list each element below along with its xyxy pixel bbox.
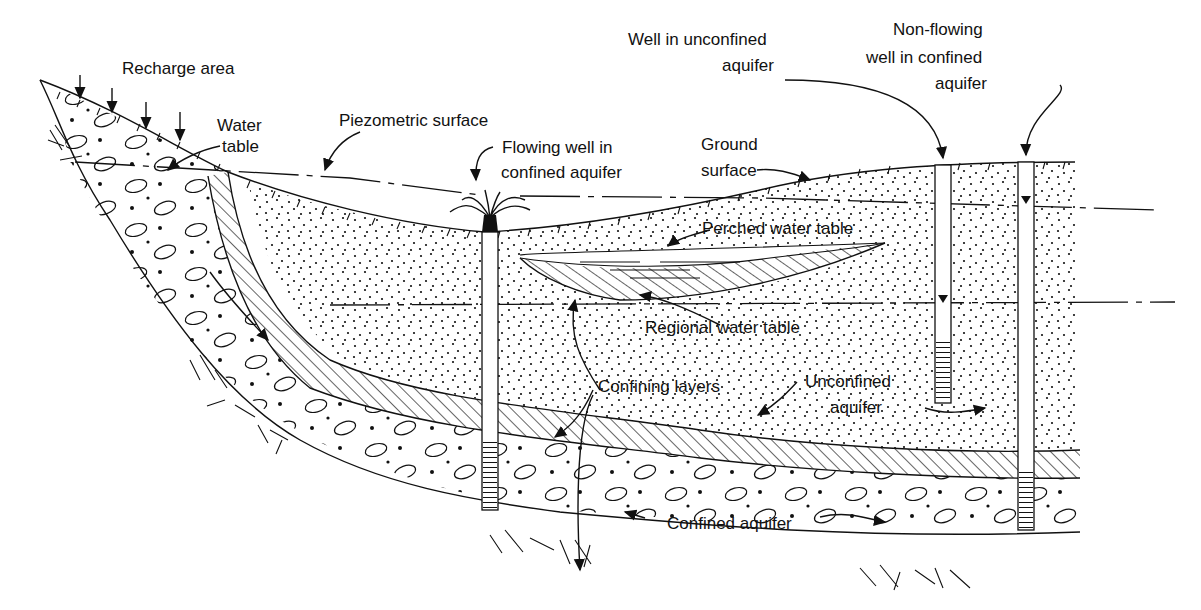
label-confined-aquifer: Confined aquifer	[667, 514, 792, 533]
label-well-unconfined-line2: aquifer	[722, 56, 774, 75]
label-ground-surface-line2: surface	[701, 161, 757, 180]
label-regional-water-table: Regional water table	[645, 318, 800, 337]
label-flowing-well-line1: Flowing well in	[502, 138, 613, 157]
label-well-unconfined-line1: Well in unconfined	[628, 30, 767, 49]
label-water-table-line1: Water	[217, 116, 262, 135]
label-nonflowing-well-line2: well in confined	[865, 48, 982, 67]
label-water-table-line2: table	[222, 137, 259, 156]
label-nonflowing-well-line3: aquifer	[935, 74, 987, 93]
non-flowing-well	[1018, 162, 1034, 530]
label-nonflowing-well-line1: Non-flowing	[893, 20, 983, 39]
label-recharge-area: Recharge area	[122, 59, 235, 78]
label-ground-surface-line1: Ground	[701, 135, 758, 154]
label-unconfined-aquifer-line2: aquifer	[830, 398, 882, 417]
label-piezometric-surface: Piezometric surface	[339, 111, 488, 130]
label-unconfined-aquifer-line1: Unconfined	[805, 372, 891, 391]
label-perched-water-table: Perched water table	[702, 219, 853, 238]
well-unconfined	[935, 165, 951, 403]
label-flowing-well-line2: confined aquifer	[501, 163, 622, 182]
label-confining-layers: Confining layers	[598, 377, 720, 396]
aquifer-diagram: Recharge area Water table Piezometric su…	[0, 0, 1201, 610]
